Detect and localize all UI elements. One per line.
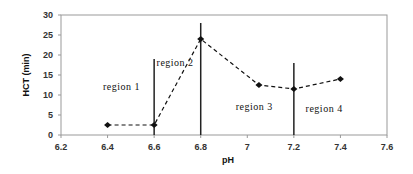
region-labels: region 1region 2region 3region 4 (103, 57, 343, 114)
data-point-marker (255, 82, 262, 88)
x-axis-ticks: 6.26.46.66.877.27.47.6 (55, 135, 394, 152)
y-tick-label: 5 (48, 110, 53, 120)
data-point-marker (151, 122, 158, 128)
x-tick-label: 6.4 (101, 142, 114, 152)
x-tick-label: 7 (245, 142, 250, 152)
data-point-marker (290, 86, 297, 92)
x-axis-label: pH (222, 155, 234, 165)
x-tick-label: 6.8 (194, 142, 207, 152)
y-tick-label: 30 (43, 10, 53, 20)
x-tick-label: 7.2 (288, 142, 301, 152)
region-boundaries (154, 23, 294, 135)
hct-ph-chart: 051015202530 6.26.46.66.877.27.47.6 regi… (0, 0, 413, 174)
x-tick-label: 6.6 (148, 142, 161, 152)
y-tick-label: 15 (43, 70, 53, 80)
y-tick-label: 0 (48, 130, 53, 140)
data-point-marker (104, 122, 111, 128)
y-tick-label: 10 (43, 90, 53, 100)
x-tick-label: 7.4 (334, 142, 347, 152)
y-axis-label: HCT (min) (21, 54, 31, 97)
x-tick-label: 7.6 (381, 142, 394, 152)
y-tick-label: 20 (43, 50, 53, 60)
x-tick-label: 6.2 (55, 142, 68, 152)
region-label: region 1 (103, 81, 140, 92)
y-axis-ticks: 051015202530 (43, 10, 61, 140)
region-label: region 3 (236, 101, 273, 112)
plot-area (61, 15, 387, 135)
region-label: region 4 (306, 103, 343, 114)
y-tick-label: 25 (43, 30, 53, 40)
data-point-marker (337, 76, 344, 82)
region-label: region 2 (157, 57, 194, 68)
